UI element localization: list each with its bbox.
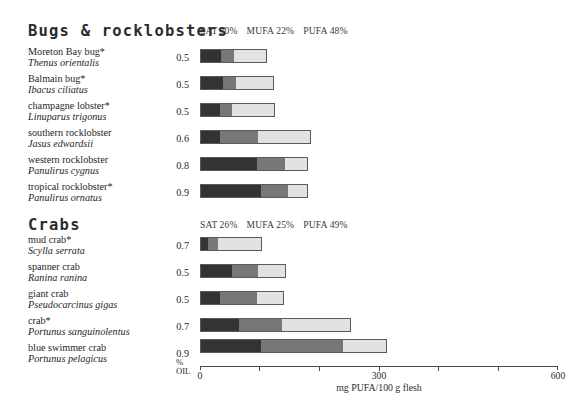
oil-value: 0.7 <box>163 321 189 332</box>
bar-segment-sat <box>201 50 221 62</box>
legend-label-sat: SAT <box>200 25 218 36</box>
list-item: southern rocklobster Jasus edwardsii <box>28 127 168 150</box>
x-axis-minor-tick <box>259 367 260 371</box>
species-latin-name: Panulirus cygnus <box>28 165 168 176</box>
x-axis-minor-tick <box>438 367 439 371</box>
oil-value: 0.5 <box>163 106 189 117</box>
x-axis-minor-tick <box>498 367 499 371</box>
legend-pct-sat: 30% <box>220 25 238 36</box>
table-row <box>200 76 274 90</box>
bar-segment-sat <box>201 77 223 89</box>
species-common-name: mud crab* <box>28 234 168 245</box>
bar-segment-mufa <box>220 292 257 304</box>
legend-label-pufa: PUFA <box>303 219 327 230</box>
oil-value: 0.9 <box>163 187 189 198</box>
bar-segment-sat <box>201 104 220 116</box>
section-title-bugs: Bugs & rocklobsters <box>28 22 228 40</box>
bar-segment-pufa <box>288 185 308 197</box>
bar-segment-sat <box>201 131 220 143</box>
oil-value: 0.6 <box>163 133 189 144</box>
bar-segment-mufa <box>239 319 282 331</box>
bar-segment-pufa <box>218 238 261 250</box>
species-common-name: spanner crab <box>28 261 168 272</box>
list-item: blue swimmer crab Portunus pelagicus <box>28 342 168 365</box>
bar-segment-mufa <box>223 77 236 89</box>
bar-segment-pufa <box>343 340 386 352</box>
species-common-name: champagne lobster* <box>28 100 168 111</box>
list-item: spanner crab Ranina ranina <box>28 261 168 284</box>
oil-value: 0.5 <box>163 79 189 90</box>
oil-value: 0.8 <box>163 160 189 171</box>
oil-value: 0.5 <box>163 267 189 278</box>
bar-segment-sat <box>201 185 261 197</box>
table-row <box>200 157 308 171</box>
list-item: western rocklobster Panulirus cygnus <box>28 154 168 177</box>
legend-pct-mufa: 25% <box>276 219 294 230</box>
legend-label-sat: SAT <box>200 219 218 230</box>
bar-segment-sat <box>201 158 257 170</box>
bar-segment-mufa <box>232 265 258 277</box>
species-latin-name: Ibacus ciliatus <box>28 84 168 95</box>
oil-value: 0.5 <box>163 294 189 305</box>
bar-segment-mufa <box>220 104 232 116</box>
species-common-name: Balmain bug* <box>28 73 168 84</box>
bar-segment-pufa <box>282 319 351 331</box>
bar-segment-sat <box>201 292 220 304</box>
bar-segment-pufa <box>258 265 285 277</box>
species-common-name: Moreton Bay bug* <box>28 46 168 57</box>
species-latin-name: Scylla serrata <box>28 245 168 256</box>
table-row <box>200 339 387 353</box>
bar-segment-sat <box>201 340 261 352</box>
bar-segment-mufa <box>257 158 285 170</box>
table-row <box>200 318 351 332</box>
x-axis-tick-label-0: 0 <box>180 370 220 381</box>
legend-pct-mufa: 22% <box>276 25 294 36</box>
species-latin-name: Pseudocarcinus gigas <box>28 299 168 310</box>
list-item: Moreton Bay bug* Thenus orientalis <box>28 46 168 69</box>
species-latin-name: Panulirus ornatus <box>28 192 168 203</box>
section-title-crabs: Crabs <box>28 216 81 234</box>
table-row <box>200 103 275 117</box>
table-row <box>200 49 267 63</box>
list-item: crab* Portunus sanguinolentus <box>28 315 168 338</box>
table-row <box>200 264 286 278</box>
chart-figure: Bugs & rocklobsters SAT30%MUFA22%PUFA48%… <box>0 0 582 412</box>
list-item: Balmain bug* Ibacus ciliatus <box>28 73 168 96</box>
bar-segment-sat <box>201 265 232 277</box>
legend-pct-sat: 26% <box>220 219 238 230</box>
species-latin-name: Portunus sanguinolentus <box>28 326 168 337</box>
species-latin-name: Portunus pelagicus <box>28 353 168 364</box>
x-axis-minor-tick <box>319 367 320 371</box>
x-axis-tick-label-300: 300 <box>359 370 399 381</box>
list-item: tropical rocklobster* Panulirus ornatus <box>28 181 168 204</box>
bar-segment-mufa <box>261 185 288 197</box>
legend-label-mufa: MUFA <box>247 219 275 230</box>
species-common-name: blue swimmer crab <box>28 342 168 353</box>
legend-crabs: SAT26%MUFA25%PUFA49% <box>200 219 357 230</box>
table-row <box>200 130 311 144</box>
bar-segment-pufa <box>232 104 274 116</box>
bar-segment-sat <box>201 319 239 331</box>
bar-segment-mufa <box>261 340 343 352</box>
bar-segment-pufa <box>236 77 272 89</box>
bar-segment-mufa <box>221 50 234 62</box>
list-item: champagne lobster* Linuparus trigonus <box>28 100 168 123</box>
bar-segment-sat <box>201 238 208 250</box>
species-common-name: southern rocklobster <box>28 127 168 138</box>
species-latin-name: Jasus edwardsii <box>28 138 168 149</box>
species-latin-name: Thenus orientalis <box>28 57 168 68</box>
x-axis-tick-label-600: 600 <box>538 370 578 381</box>
species-common-name: crab* <box>28 315 168 326</box>
list-item: giant crab Pseudocarcinus gigas <box>28 288 168 311</box>
table-row <box>200 291 284 305</box>
legend-label-mufa: MUFA <box>247 25 275 36</box>
bar-segment-pufa <box>285 158 307 170</box>
table-row <box>200 237 262 251</box>
legend-pct-pufa: 49% <box>330 219 348 230</box>
x-axis-title: mg PUFA/100 g flesh <box>249 382 509 393</box>
bar-segment-pufa <box>257 292 283 304</box>
bar-segment-pufa <box>234 50 266 62</box>
bar-segment-mufa <box>220 131 258 143</box>
bar-segment-mufa <box>208 238 218 250</box>
species-common-name: giant crab <box>28 288 168 299</box>
